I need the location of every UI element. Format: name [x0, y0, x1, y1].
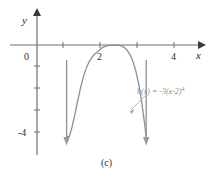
figure-caption: (c) — [0, 157, 213, 168]
x-tick-label-2: 2 — [97, 51, 102, 62]
x-tick-label-4: 4 — [171, 51, 176, 62]
function-annotation-label: h(x) = -3(x-2)4 — [137, 86, 184, 96]
y-tick-label-minus4: -4 — [18, 127, 26, 138]
x-axis-label: x — [195, 49, 201, 61]
function-annotation-text: h(x) = -3(x-2) — [137, 87, 182, 96]
y-axis-label: y — [21, 14, 27, 26]
plot-svg: y x 0 2 4 -4 h(x) = -3(x-2)4 — [0, 0, 213, 176]
annotation-leader-arrow-icon — [130, 109, 135, 114]
annotation-leader-line — [131, 95, 146, 110]
curve-left-arrow-icon — [63, 137, 69, 146]
curve-right-arrow-icon — [143, 137, 149, 146]
origin-label: 0 — [24, 51, 29, 62]
x-axis-arrow-icon — [198, 41, 206, 49]
function-curve — [67, 45, 147, 137]
function-annotation-exponent: 4 — [181, 86, 184, 92]
figure-container: y x 0 2 4 -4 h(x) = -3(x-2)4 (c) — [0, 0, 213, 176]
y-axis-arrow-icon — [33, 8, 41, 16]
